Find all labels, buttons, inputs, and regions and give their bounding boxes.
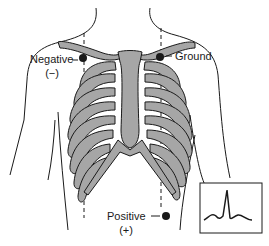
torso-outline [10,8,230,230]
rib-cage [58,41,195,202]
negative-polarity: (−) [42,67,62,79]
positive-electrode [162,212,170,220]
negative-electrode [79,54,87,62]
ground-label: Ground [175,50,212,62]
ecg-waveform-inset [200,183,262,233]
ground-electrode [156,53,164,61]
positive-label: Positive [107,210,146,222]
ecg-lead-placement-diagram: Negative (−) Ground Positive (+) [0,0,269,246]
positive-polarity: (+) [114,224,138,236]
negative-label: Negative [30,53,73,65]
